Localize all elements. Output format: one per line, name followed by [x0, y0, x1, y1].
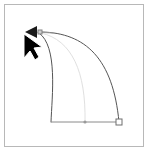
tangent-handle-knob[interactable] — [38, 30, 42, 34]
app-root — [0, 0, 148, 153]
midpoint-marker[interactable] — [83, 120, 86, 123]
drawing-canvas[interactable] — [0, 0, 148, 153]
canvas-svg[interactable] — [0, 0, 148, 153]
end-anchor-point[interactable] — [116, 119, 122, 125]
canvas-background — [0, 0, 148, 153]
